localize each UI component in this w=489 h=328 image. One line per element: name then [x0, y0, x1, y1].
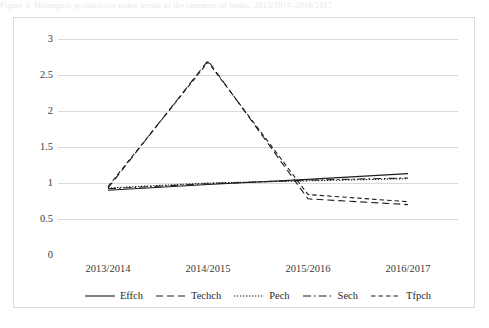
legend-item-techch[interactable]: Techch — [156, 291, 221, 301]
fine-dashed-line-swatch — [371, 292, 401, 300]
legend-item-tfpch[interactable]: Tfpch — [371, 291, 431, 301]
legend-label: Sech — [338, 291, 358, 301]
x-axis-tick-labels: 2013/20142014/20152015/20162016/2017 — [58, 260, 458, 278]
dashed-line-swatch — [156, 292, 186, 300]
chart-legend: EffchTechchPechSechTfpch — [58, 286, 458, 306]
x-axis-tick-label: 2015/2016 — [258, 260, 358, 278]
plot-svg — [58, 39, 458, 255]
y-axis-tick-labels: 00.511.522.53 — [14, 39, 53, 255]
legend-label: Techch — [191, 291, 221, 301]
legend-label: Tfpch — [406, 291, 431, 301]
legend-item-sech[interactable]: Sech — [303, 291, 358, 301]
x-axis-tick-label: 2014/2015 — [158, 260, 258, 278]
legend-item-effch[interactable]: Effch — [85, 291, 143, 301]
plot-area — [58, 39, 458, 255]
dash-dot-line-swatch — [303, 292, 333, 300]
x-axis-tick-label: 2016/2017 — [358, 260, 458, 278]
solid-line-swatch — [85, 292, 115, 300]
y-axis-tick-label: 2 — [48, 106, 53, 117]
y-axis-tick-label: 0 — [48, 250, 53, 261]
y-axis-tick-label: 0.5 — [40, 214, 53, 225]
y-axis-tick-label: 2.5 — [40, 70, 53, 81]
cropped-caption-text: Figure 4. Malmquist productivity index t… — [0, 0, 489, 12]
series-line-tfpch — [108, 62, 408, 202]
x-axis-tick-label: 2013/2014 — [58, 260, 158, 278]
legend-item-pech[interactable]: Pech — [234, 291, 289, 301]
y-axis-tick-label: 1.5 — [40, 142, 53, 153]
y-axis-tick-label: 1 — [48, 178, 53, 189]
legend-label: Pech — [269, 291, 289, 301]
chart-frame: 00.511.522.53 2013/20142014/20152015/201… — [13, 17, 475, 308]
legend-label: Effch — [120, 291, 143, 301]
dotted-line-swatch — [234, 292, 264, 300]
y-axis-tick-label: 3 — [48, 34, 53, 45]
chart-page: Figure 4. Malmquist productivity index t… — [0, 0, 489, 328]
